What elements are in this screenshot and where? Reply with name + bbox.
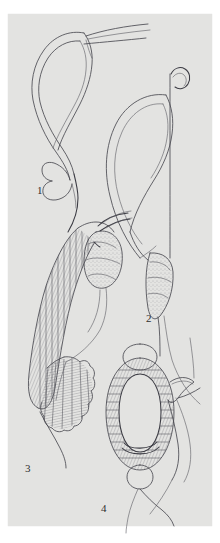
figure-1-label: 1 (37, 184, 43, 196)
figure-2-drawing (106, 68, 200, 404)
figure-2-label: 2 (146, 312, 152, 324)
illustration-plate: 1 (0, 0, 220, 543)
figure-1-drawing (32, 24, 150, 232)
figure-3-label: 3 (25, 462, 31, 474)
figure-4-drawing (106, 338, 200, 533)
plate-drawing: 1 (0, 0, 220, 543)
figure-4-label: 4 (101, 502, 107, 514)
